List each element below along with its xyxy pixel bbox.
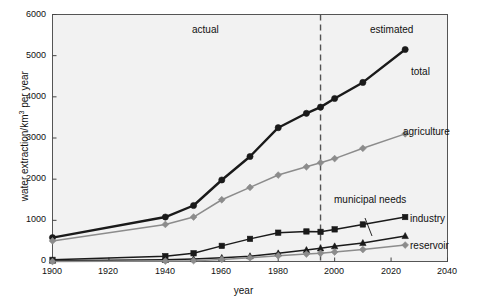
x-tick-label: 1900 [35, 266, 69, 276]
annotation-estimated: estimated [370, 24, 413, 35]
x-axis-title: year [0, 285, 487, 296]
y-axis-title-exponent: 3 [18, 111, 25, 115]
x-tick-label: 1960 [204, 266, 238, 276]
x-tick-label: 2000 [317, 266, 351, 276]
series-label-industry: industry [410, 213, 445, 224]
chart-svg-layer [0, 0, 487, 308]
series-label-municipal-needs: municipal needs [334, 194, 396, 205]
water-extraction-chart: 6000 5000 4000 3000 2000 1000 0 1900 192… [0, 0, 487, 308]
x-tick-label: 1940 [148, 266, 182, 276]
y-tick-label: 0 [10, 255, 46, 265]
y-axis-title-base: water extraction/km [19, 115, 30, 202]
x-tick-label: 2040 [430, 266, 464, 276]
x-tick-label: 1980 [261, 266, 295, 276]
series-label-municipal-needs-text: municipal needs [334, 194, 406, 205]
x-tick-label: 1920 [91, 266, 125, 276]
series-label-total: total [411, 66, 430, 77]
y-axis-title-tail: per year [19, 71, 30, 110]
x-tick-label: 2020 [374, 266, 408, 276]
annotation-actual: actual [192, 24, 219, 35]
series-label-reservoir: reservoir [410, 240, 449, 251]
series-label-agriculture: agriculture [403, 126, 450, 137]
y-axis-title: water extraction/km3 per year [18, 16, 30, 256]
